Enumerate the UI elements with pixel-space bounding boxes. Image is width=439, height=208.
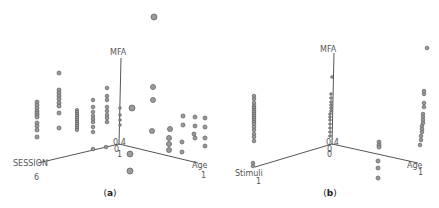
data-point [330,104,333,107]
figure-caption: (a) [103,188,116,198]
data-point [119,124,122,127]
data-point [329,135,332,138]
data-point [329,131,332,134]
axis-left [255,144,332,167]
data-point [330,107,333,110]
data-point [57,126,61,130]
data-point [57,97,61,101]
data-point [57,104,61,108]
data-point [376,159,380,163]
data-point [91,130,95,134]
tick-label-left: 6 [34,173,39,182]
scatter3d-b: MFAStimuliAge110.400(b) [220,0,439,208]
data-point [377,145,381,149]
data-point [57,71,61,75]
data-point [35,128,39,132]
data-point [129,105,135,111]
data-point [331,76,334,79]
data-point [192,132,196,136]
data-point [91,147,95,151]
data-point [203,125,207,129]
data-point [419,138,423,142]
data-point [193,136,197,140]
figure-caption: (b) [323,188,336,198]
data-point [91,98,95,102]
data-point [329,119,332,122]
data-point [330,101,333,104]
data-point [168,127,173,132]
data-point [252,128,256,132]
data-point [91,105,95,109]
data-point [35,115,39,119]
data-point [105,94,109,98]
axis-vertical [119,58,121,144]
data-point [203,116,207,120]
axis-label-left: SESSION [13,159,48,168]
axis-label-vertical: MFA [110,48,127,57]
data-point [181,114,185,118]
data-point [422,92,426,96]
data-point [251,164,255,168]
data-point [418,143,422,147]
scatter3d-a: MFASESSIONAge610.401(a) [0,0,220,208]
data-point [419,134,423,138]
data-point [330,93,333,96]
data-point [329,116,332,119]
data-point [329,113,332,116]
axis-label-vertical: MFA [320,45,337,54]
tick-label-left: 1 [256,177,261,186]
axis-label-right: Age [192,161,208,170]
data-point [150,129,155,134]
data-point [119,114,122,117]
tick-label-right: 1 [418,168,423,177]
data-point [376,166,380,170]
data-point [75,128,78,131]
data-point [91,110,95,114]
data-point [57,111,61,115]
data-point [425,46,429,50]
data-point [151,98,156,103]
data-point [181,123,185,127]
data-point [376,176,380,180]
data-point [252,139,256,143]
chart-panel-b: MFAStimuliAge110.400(b) [220,0,439,208]
data-point [35,135,39,139]
data-point [330,110,333,113]
data-point [180,150,184,154]
data-point [35,124,39,128]
data-point [119,119,122,122]
tick-label-right: 1 [201,171,206,180]
data-point [104,145,108,149]
data-point [105,86,109,90]
data-point [329,127,332,130]
data-point [180,140,184,144]
data-point [252,97,256,101]
data-point [193,115,197,119]
data-point [167,136,172,141]
data-point [151,85,156,90]
origin-label: 0 [327,150,332,159]
axis-right [332,144,418,163]
data-point [203,144,207,148]
data-point [329,123,332,126]
data-point [252,135,256,139]
data-point [422,105,426,109]
data-point [167,142,172,147]
data-point [422,101,426,105]
data-point [167,148,172,153]
data-point [203,136,207,140]
data-point [151,14,157,20]
data-point [105,98,109,102]
data-point [91,125,95,129]
chart-panel-a: MFASESSIONAge610.401(a) [0,0,220,208]
data-point [127,168,133,174]
data-point [193,124,197,128]
data-point [105,105,109,109]
data-point [105,120,109,124]
data-point [105,109,109,113]
data-point [330,97,333,100]
data-point [127,151,133,157]
data-point [91,120,95,124]
data-point [119,107,122,110]
data-point [420,130,424,134]
